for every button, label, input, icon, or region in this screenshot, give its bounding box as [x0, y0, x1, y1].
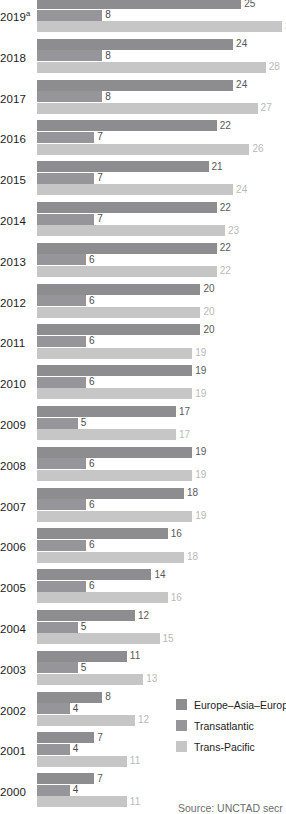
bar-2014-europe-asia-europe: [37, 202, 217, 213]
bar-row: 8: [37, 10, 286, 21]
bar-2007-transatlantic: [37, 499, 86, 510]
bar-value-label: 28: [269, 62, 280, 72]
bar-2002-transatlantic: [37, 703, 70, 714]
bar-2010-europe-asia-europe: [37, 365, 192, 376]
bar-2007-trans-pacific: [37, 511, 192, 522]
bar-value-label: 26: [252, 144, 263, 154]
bar-row: 30: [37, 21, 286, 32]
legend-swatch-icon: [176, 741, 187, 752]
axis-tick-label-2012: 2012: [0, 297, 33, 309]
year-group: 201824828: [0, 39, 286, 80]
bar-row: 6: [37, 499, 286, 510]
bar-2006-trans-pacific: [37, 552, 184, 563]
axis-tick-label-2016: 2016: [0, 133, 33, 145]
bar-row: 18: [37, 488, 286, 499]
year-group: 2019a25830: [0, 0, 286, 39]
bar-value-label: 18: [187, 552, 198, 562]
bar-value-label: 12: [138, 611, 149, 621]
bar-2000-transatlantic: [37, 785, 70, 796]
bar-2019a-trans-pacific: [37, 21, 282, 32]
bar-row: 17: [37, 429, 286, 440]
bar-2011-trans-pacific: [37, 348, 192, 359]
bar-row: 27: [37, 103, 286, 114]
bar-row: 19: [37, 470, 286, 481]
bar-2005-transatlantic: [37, 581, 86, 592]
bar-row: 22: [37, 266, 286, 277]
bar-row: 14: [37, 569, 286, 580]
bar-value-label: 27: [261, 103, 272, 113]
bar-2003-trans-pacific: [37, 674, 143, 685]
bar-row: 8: [37, 50, 286, 61]
year-group: 201521724: [0, 161, 286, 202]
bar-2001-transatlantic: [37, 744, 70, 755]
bar-2004-trans-pacific: [37, 633, 160, 644]
bar-2005-europe-asia-europe: [37, 569, 151, 580]
bar-2018-europe-asia-europe: [37, 39, 233, 50]
bar-row: 6: [37, 458, 286, 469]
bar-value-label: 8: [105, 92, 111, 102]
bar-value-label: 6: [89, 377, 95, 387]
bar-2008-europe-asia-europe: [37, 447, 192, 458]
axis-tick-label-2013: 2013: [0, 256, 33, 268]
bar-2001-europe-asia-europe: [37, 732, 94, 743]
bar-row: 11: [37, 756, 286, 767]
bar-value-label: 19: [195, 511, 206, 521]
bar-value-label: 16: [171, 593, 182, 603]
bar-value-label: 4: [73, 704, 79, 714]
axis-tick-label-2007: 2007: [0, 501, 33, 513]
year-group: 201422723: [0, 202, 286, 243]
bar-value-label: 6: [89, 336, 95, 346]
bar-2016-europe-asia-europe: [37, 120, 217, 131]
legend-label: Transatlantic: [194, 720, 254, 732]
axis-tick-label-2002: 2002: [0, 705, 33, 717]
legend-item-europe-asia-europe[interactable]: Europe–Asia–Europe: [176, 694, 286, 715]
bar-2010-transatlantic: [37, 377, 86, 388]
bar-row: 4: [37, 785, 286, 796]
bar-2013-trans-pacific: [37, 266, 217, 277]
bar-2003-transatlantic: [37, 662, 78, 673]
year-group: 200412515: [0, 610, 286, 651]
bar-value-label: 6: [89, 540, 95, 550]
bar-row: 5: [37, 662, 286, 673]
bar-value-label: 17: [179, 430, 190, 440]
legend-label: Europe–Asia–Europe: [194, 699, 286, 711]
bar-value-label: 22: [220, 121, 231, 131]
bar-2000-europe-asia-europe: [37, 773, 94, 784]
bar-row: 22: [37, 243, 286, 254]
bar-2002-trans-pacific: [37, 715, 135, 726]
bar-value-label: 5: [81, 622, 87, 632]
bar-2002-europe-asia-europe: [37, 692, 102, 703]
bar-2006-europe-asia-europe: [37, 528, 168, 539]
bar-2015-transatlantic: [37, 173, 94, 184]
bar-row: 7: [37, 173, 286, 184]
legend-item-transatlantic[interactable]: Transatlantic: [176, 715, 286, 736]
axis-tick-label-2005: 2005: [0, 582, 33, 594]
bar-2009-europe-asia-europe: [37, 406, 176, 417]
bar-row: 6: [37, 377, 286, 388]
bar-row: 16: [37, 528, 286, 539]
legend-item-trans-pacific[interactable]: Trans-Pacific: [176, 736, 286, 757]
bar-2003-europe-asia-europe: [37, 651, 127, 662]
axis-tick-label-2011: 2011: [0, 337, 33, 349]
bar-row: 16: [37, 592, 286, 603]
bar-value-label: 5: [81, 418, 87, 428]
bar-row: 5: [37, 418, 286, 429]
bar-2019a-transatlantic: [37, 10, 102, 21]
bar-2005-trans-pacific: [37, 592, 168, 603]
bar-row: 22: [37, 202, 286, 213]
bar-chart-plot-area: 2019a25830201824828201724827201622726201…: [0, 0, 286, 814]
bar-2008-trans-pacific: [37, 470, 192, 481]
bar-2018-transatlantic: [37, 50, 102, 61]
year-group: 201220620: [0, 284, 286, 325]
bar-row: 6: [37, 254, 286, 265]
bar-row: 13: [37, 674, 286, 685]
year-group: 200616618: [0, 528, 286, 569]
year-group: 201322622: [0, 243, 286, 284]
bar-row: 19: [37, 388, 286, 399]
bar-row: 15: [37, 633, 286, 644]
bar-2012-transatlantic: [37, 295, 86, 306]
bar-2004-transatlantic: [37, 622, 78, 633]
bar-2012-europe-asia-europe: [37, 284, 200, 295]
bar-2011-europe-asia-europe: [37, 324, 200, 335]
bar-value-label: 7: [97, 173, 103, 183]
